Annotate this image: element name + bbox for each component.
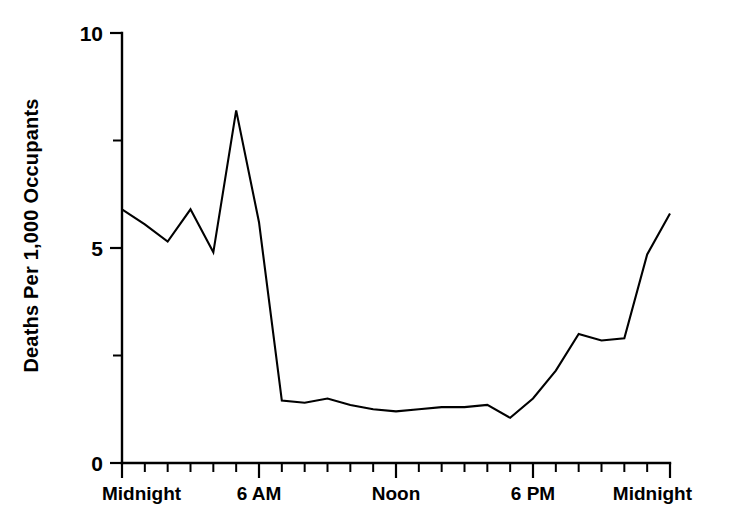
chart-figure: Deaths Per 1,000 Occupants 0510 Midnight… (0, 0, 738, 530)
x-axis-ticks (122, 463, 670, 478)
y-tick-label: 5 (91, 237, 103, 260)
axes-group (122, 33, 670, 463)
x-tick-label: 6 AM (237, 483, 282, 504)
x-tick-label: Noon (372, 483, 421, 504)
y-tick-label: 10 (80, 22, 103, 45)
data-line-deaths (122, 110, 670, 417)
line-chart-plot: 0510 Midnight6 AMNoon6 PMMidnight (0, 0, 738, 530)
data-series-group (122, 110, 670, 417)
x-tick-label: Midnight (102, 483, 182, 504)
x-tick-label: Midnight (613, 483, 693, 504)
y-tick-label: 0 (91, 452, 103, 475)
y-axis-ticks (110, 33, 122, 463)
x-tick-label: 6 PM (511, 483, 555, 504)
y-axis-tick-labels: 0510 (80, 22, 104, 475)
x-axis-tick-labels: Midnight6 AMNoon6 PMMidnight (102, 483, 693, 504)
